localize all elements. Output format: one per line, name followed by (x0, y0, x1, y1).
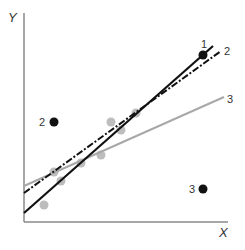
line-label-2: 2 (224, 45, 230, 57)
fit-line-3 (24, 97, 224, 186)
outlier-point-1 (199, 51, 208, 60)
data-point (40, 201, 49, 210)
data-point (107, 118, 116, 127)
line-label-3: 3 (227, 93, 233, 105)
y-axis-label: Y (8, 10, 18, 25)
outlier-point-3 (199, 185, 208, 194)
fit-line-1 (24, 46, 213, 213)
x-axis-label: X (218, 225, 229, 240)
outlier-point-2 (50, 118, 59, 127)
outlier-label-2: 2 (39, 116, 45, 128)
outlier-label-1: 1 (201, 38, 207, 50)
scatter-chart: Y X 1 2 3 2 3 (0, 0, 245, 250)
outlier-label-3: 3 (189, 183, 195, 195)
